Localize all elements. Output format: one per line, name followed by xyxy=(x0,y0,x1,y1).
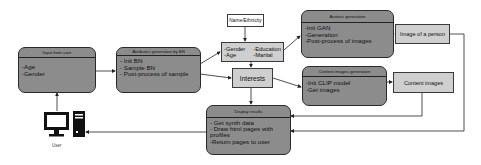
node-label: Interests xyxy=(240,75,265,82)
attributes-generation-node: Attributes generation by BN - Init BN - … xyxy=(116,47,201,93)
node-title: Avatars generation xyxy=(302,11,393,23)
node-label: Image of a person xyxy=(400,31,445,37)
node-item: -Gender xyxy=(22,71,92,78)
computer-icon xyxy=(43,110,89,140)
interests-node: Interests xyxy=(232,68,273,88)
node-item: -Get images xyxy=(306,87,383,94)
name-ethnicity-node: Name/Ethnicity xyxy=(227,14,264,27)
node-item: -Marital xyxy=(253,52,281,58)
image-of-person-node: Image of a person xyxy=(395,24,450,44)
node-title: Input from user xyxy=(19,48,95,58)
user-label: User xyxy=(52,143,62,148)
node-label: Content images xyxy=(404,80,443,86)
display-results-node: Display results - Get synth data - Draw … xyxy=(206,105,291,155)
arrow-attributes-to-demographics xyxy=(200,52,220,64)
avatars-generation-node: Avatars generation -Init GAN -Generation… xyxy=(301,10,394,58)
demographics-node: -Gender -Age -Education -Marital xyxy=(221,42,284,62)
node-item: - Draw html pages with profiles xyxy=(210,126,287,138)
input-from-user-node: Input from user -Age -Gender xyxy=(18,47,96,93)
arrow-attributes-to-interests xyxy=(200,74,231,78)
arrow-demographics-to-avatars xyxy=(284,36,300,50)
node-label: Name/Ethnicity xyxy=(229,18,261,23)
node-item: - Post-process of sample xyxy=(120,71,197,78)
content-images-node: Content images xyxy=(393,72,454,93)
content-images-generation-node: Content images generation -Init CLIP mod… xyxy=(302,66,387,106)
node-title: Content images generation xyxy=(303,67,386,77)
node-title: Display results xyxy=(207,106,290,118)
node-item: -Age xyxy=(224,52,245,58)
arrow-interests-to-content-gen xyxy=(273,78,301,87)
node-item: -Return pages to user xyxy=(210,139,287,145)
node-item: -Post-process of images xyxy=(305,38,390,45)
node-title: Attributes generation by BN xyxy=(117,48,200,56)
